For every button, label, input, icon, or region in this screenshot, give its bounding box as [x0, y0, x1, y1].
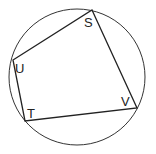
circumscribed-circle	[9, 9, 145, 145]
vertex-label-v: V	[121, 94, 130, 109]
cyclic-quadrilateral-diagram: S U T V	[0, 0, 156, 154]
vertex-label-t: T	[27, 106, 35, 121]
vertex-label-u: U	[15, 61, 24, 76]
vertex-label-s: S	[84, 15, 93, 30]
